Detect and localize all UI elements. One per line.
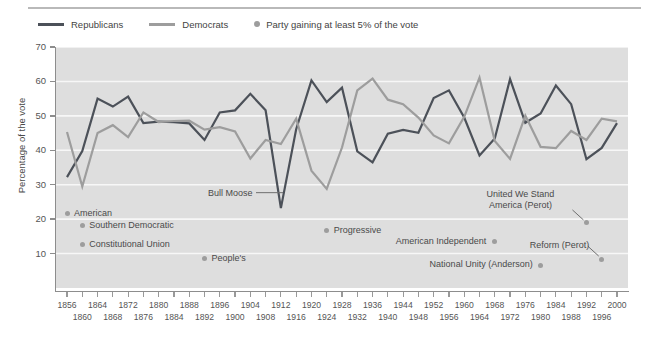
x-tick: [418, 292, 419, 297]
y-tick: [50, 253, 55, 254]
x-tick-label: 1880: [142, 300, 176, 310]
x-tick: [372, 292, 373, 297]
y-tick-label: 20: [12, 213, 46, 224]
annotation-label-american: American: [74, 208, 112, 218]
top-divider: [28, 7, 641, 9]
annotation-label-southern-democratic: Southern Democratic: [89, 220, 174, 230]
x-tick-label: 1876: [126, 312, 160, 322]
x-tick: [387, 292, 388, 297]
y-tick-label: 40: [12, 144, 46, 155]
y-tick-label: 60: [12, 75, 46, 86]
x-tick-label: 1920: [294, 300, 328, 310]
x-tick-label: 1980: [524, 312, 558, 322]
x-tick-label: 1892: [188, 312, 222, 322]
x-tick: [540, 292, 541, 297]
line-swatch-icon: [38, 23, 64, 26]
x-tick: [448, 292, 449, 297]
series-svg: [56, 47, 628, 288]
x-tick-label: 1940: [371, 312, 405, 322]
x-tick-label: 1956: [432, 312, 466, 322]
x-tick-label: 1984: [539, 300, 573, 310]
x-tick-label: 1924: [310, 312, 344, 322]
y-tick-label: 30: [12, 179, 46, 190]
x-tick-label: 1948: [401, 312, 435, 322]
x-tick: [219, 292, 220, 297]
x-tick: [341, 292, 342, 297]
annotation-label-people-s: People's: [212, 253, 246, 263]
x-tick-label: 1960: [447, 300, 481, 310]
y-tick: [50, 184, 55, 185]
x-tick: [616, 292, 617, 297]
x-tick: [464, 292, 465, 297]
x-tick-label: 1864: [81, 300, 115, 310]
y-tick-label: 50: [12, 110, 46, 121]
annotation-dot-national-unity-anderson[interactable]: [538, 263, 543, 268]
x-tick: [173, 292, 174, 297]
x-tick-label: 1896: [203, 300, 237, 310]
x-tick-label: 1912: [264, 300, 298, 310]
x-tick: [525, 292, 526, 297]
x-tick-label: 1996: [585, 312, 619, 322]
annotation-label-bull-moose: Bull Moose: [208, 188, 253, 198]
x-tick: [112, 292, 113, 297]
series-line-democrats: [67, 78, 617, 189]
chart-legend: RepublicansDemocratsParty gaining at lea…: [38, 17, 444, 31]
x-tick: [601, 292, 602, 297]
x-tick-label: 1900: [218, 312, 252, 322]
x-tick-label: 1936: [356, 300, 390, 310]
x-tick: [509, 292, 510, 297]
y-tick-label: 10: [12, 248, 46, 259]
plot-area: [56, 47, 628, 288]
dot-swatch-icon: [254, 21, 260, 27]
x-tick-label: 1856: [50, 300, 84, 310]
x-tick: [82, 292, 83, 297]
legend-item-republicans[interactable]: Republicans: [38, 19, 123, 30]
legend-item-label: Party gaining at least 5% of the vote: [266, 19, 418, 30]
annotation-label-national-unity-anderson: National Unity (Anderson): [430, 259, 533, 269]
x-tick: [143, 292, 144, 297]
x-tick: [128, 292, 129, 297]
x-tick-label: 1964: [463, 312, 497, 322]
annotation-label-united-we-stand-america-perot: United We Stand America (Perot): [474, 189, 566, 211]
x-tick-label: 1992: [569, 300, 603, 310]
x-tick-label: 1908: [249, 312, 283, 322]
x-tick: [204, 292, 205, 297]
legend-item-label: Democrats: [182, 19, 228, 30]
x-tick-label: 1872: [111, 300, 145, 310]
x-tick: [586, 292, 587, 297]
x-tick-label: 1944: [386, 300, 420, 310]
y-tick: [50, 115, 55, 116]
y-tick: [50, 150, 55, 151]
x-tick-label: 1916: [279, 312, 313, 322]
x-tick-label: 2000: [600, 300, 634, 310]
x-tick: [265, 292, 266, 297]
x-tick: [326, 292, 327, 297]
legend-item-party-gaining-at-least-5-of-the-vote[interactable]: Party gaining at least 5% of the vote: [254, 19, 418, 30]
x-tick: [433, 292, 434, 297]
annotation-dot-southern-democratic[interactable]: [80, 223, 85, 228]
annotation-dot-constitutional-union[interactable]: [80, 242, 85, 247]
x-tick: [234, 292, 235, 297]
x-tick: [555, 292, 556, 297]
annotation-label-reform-perot: Reform (Perot): [530, 240, 590, 251]
x-tick-label: 1888: [172, 300, 206, 310]
line-swatch-icon: [149, 23, 175, 26]
x-tick-label: 1932: [340, 312, 374, 322]
x-tick-label: 1928: [325, 300, 359, 310]
y-tick: [50, 46, 55, 47]
legend-item-democrats[interactable]: Democrats: [149, 19, 228, 30]
x-tick: [311, 292, 312, 297]
y-tick-label: 70: [12, 41, 46, 52]
x-tick: [479, 292, 480, 297]
x-tick-label: 1952: [417, 300, 451, 310]
x-tick: [189, 292, 190, 297]
x-tick: [280, 292, 281, 297]
x-tick-label: 1968: [478, 300, 512, 310]
x-tick: [158, 292, 159, 297]
legend-item-label: Republicans: [71, 19, 123, 30]
x-tick-label: 1860: [65, 312, 99, 322]
x-tick-label: 1868: [96, 312, 130, 322]
x-tick: [403, 292, 404, 297]
x-tick-label: 1904: [233, 300, 267, 310]
annotation-dot-reform-perot[interactable]: [599, 257, 604, 262]
